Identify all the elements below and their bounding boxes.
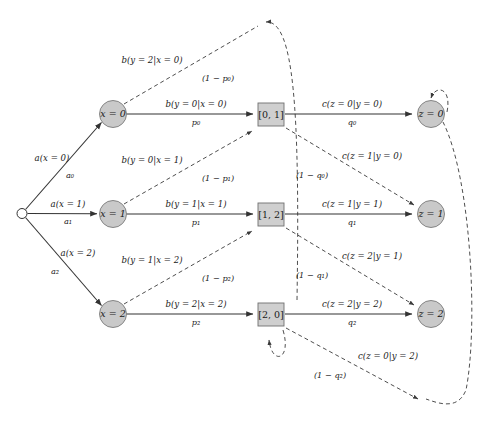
- edge-label-b-y0-x1-top: b(y = 0|x = 1): [121, 155, 182, 166]
- edge-label-c-z0-y0-bottom: q₀: [348, 117, 357, 127]
- edge-return-right-curve: [426, 122, 472, 404]
- start-node[interactable]: [17, 209, 27, 219]
- edge-label-b-y0-x1-bottom: (1 − p₁): [202, 173, 234, 183]
- edge-label-c-z2-y1-top: c(z = 2|y = 1): [342, 251, 402, 262]
- edge-label-b-y2-x2-top: b(y = 2|x = 2): [165, 299, 226, 310]
- edge-a0: [26, 123, 102, 210]
- edge-label-a1-bottom: a₁: [64, 216, 72, 226]
- edge-label-b-y0-x0-bottom: p₀: [192, 117, 201, 127]
- edge-a2: [26, 218, 102, 306]
- edge-label-a0-top: a(x = 0): [35, 153, 70, 163]
- edge-label-a1-top: a(x = 1): [51, 199, 86, 209]
- edge-label-b-y2-x2-bottom: p₂: [192, 317, 201, 327]
- edge-label-c-z0-y0-top: c(z = 0|y = 0): [322, 99, 382, 110]
- edge-label-a2-bottom: a₂: [51, 266, 59, 276]
- edge-label-b-y0-x0-top: b(y = 0|x = 0): [165, 99, 226, 110]
- diagram-canvas: x = 0 x = 1 x = 2 [0, 1] [1, 2] [2, 0] z…: [0, 0, 484, 426]
- edge-label-c-z0-y2-top: c(z = 0|y = 2): [358, 351, 418, 362]
- state-node-x1-label: x = 1: [100, 208, 125, 219]
- edge-label-b-y2-x0-top: b(y = 2|x = 0): [121, 55, 182, 66]
- decode-dashed-labels-group: c(z = 1|y = 0) (1 − q₀) c(z = 2|y = 1) (…: [296, 151, 418, 381]
- edge-label-b-y2-x0-bottom: (1 − p₀): [202, 73, 234, 83]
- edge-c-z2-y1: [286, 228, 414, 305]
- edge-b-y2-x0-curve: [266, 22, 298, 300]
- state-node-x0-label: x = 0: [100, 108, 125, 119]
- decode-solid-labels-group: c(z = 0|y = 0) q₀ c(z = 1|y = 1) q₁ c(z …: [322, 99, 382, 328]
- markov-transition-diagram: x = 0 x = 1 x = 2 [0, 1] [1, 2] [2, 0] z…: [0, 0, 484, 426]
- output-node-z0-label: z = 0: [417, 108, 443, 119]
- edge-label-c-z2-y2-top: c(z = 2|y = 2): [322, 299, 382, 310]
- edge-b20-selfarc: [269, 330, 285, 356]
- edge-label-b-y1-x1-bottom: p₁: [192, 217, 201, 227]
- edge-label-c-z2-y1-bottom: (1 − q₁): [296, 270, 328, 280]
- edge-label-b-y1-x2-top: b(y = 1|x = 2): [121, 255, 182, 266]
- state-nodes-group: x = 0 x = 1 x = 2: [100, 101, 127, 328]
- observation-boxes-group: [0, 1] [1, 2] [2, 0]: [258, 103, 284, 326]
- edge-b-y1-x2: [124, 231, 252, 304]
- emission-solid-labels-group: b(y = 0|x = 0) p₀ b(y = 1|x = 1) p₁ b(y …: [165, 99, 226, 328]
- output-node-z1-label: z = 1: [417, 208, 443, 219]
- edge-b-y0-x1: [124, 131, 252, 204]
- output-node-z2-label: z = 2: [417, 308, 443, 319]
- decode-solid-edges-group: [285, 114, 412, 314]
- state-node-x2-label: x = 2: [100, 308, 125, 319]
- edge-label-c-z1-y0-top: c(z = 1|y = 0): [342, 151, 402, 162]
- edge-label-a0-bottom: a₀: [66, 170, 75, 180]
- obs-box-12-label: [1, 2]: [258, 209, 284, 220]
- emission-dashed-labels-group: b(y = 2|x = 0) (1 − p₀) b(y = 0|x = 1) (…: [121, 55, 234, 284]
- edge-label-b-y1-x1-top: b(y = 1|x = 1): [165, 199, 226, 210]
- edge-label-c-z1-y0-bottom: (1 − q₀): [296, 170, 328, 180]
- edge-c-z0-y2: [286, 328, 418, 399]
- output-nodes-group: z = 0 z = 1 z = 2: [417, 101, 444, 328]
- edge-label-b-y1-x2-bottom: (1 − p₂): [202, 273, 234, 283]
- edge-label-c-z0-y2-bottom: (1 − q₂): [314, 370, 346, 380]
- edge-c-z1-y0: [286, 128, 414, 205]
- emission-solid-edges-group: [127, 114, 254, 314]
- prior-edge-labels-group: a(x = 0) a₀ a(x = 1) a₁ a(x = 2) a₂: [35, 153, 96, 277]
- edge-label-c-z1-y1-bottom: q₁: [348, 217, 357, 227]
- edge-label-c-z2-y2-bottom: q₂: [348, 317, 357, 327]
- obs-box-20-label: [2, 0]: [258, 309, 284, 320]
- edge-label-a2-top: a(x = 2): [61, 248, 96, 258]
- edge-b-y2-x0: [124, 26, 258, 104]
- prior-edges-group: [26, 123, 102, 306]
- obs-box-01-label: [0, 1]: [258, 109, 284, 120]
- edge-label-c-z1-y1-top: c(z = 1|y = 1): [322, 199, 382, 210]
